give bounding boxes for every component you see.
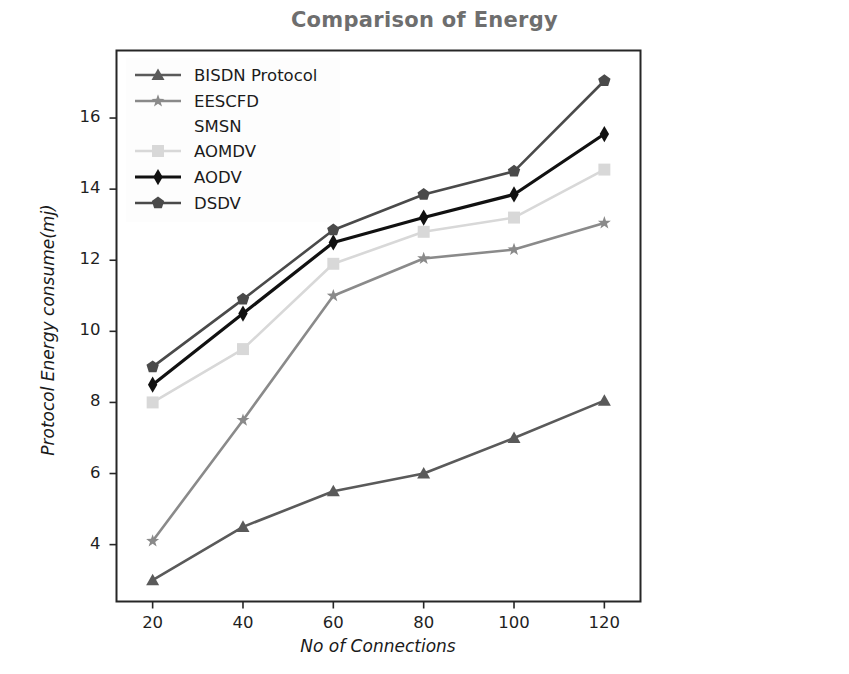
- legend-label: BISDN Protocol: [194, 66, 317, 85]
- legend-marker-icon: [132, 192, 184, 214]
- data-point-marker: [148, 377, 157, 393]
- data-point-marker: [327, 289, 340, 301]
- x-tick-label: 20: [123, 613, 183, 632]
- series-bisdn-protocol: [146, 394, 611, 585]
- data-point-marker: [598, 74, 610, 86]
- data-point-marker: [238, 305, 247, 321]
- x-tick-label: 40: [213, 613, 273, 632]
- series-line: [153, 401, 605, 581]
- y-tick-label: 6: [61, 463, 101, 482]
- data-point-marker: [146, 574, 159, 586]
- series-line: [153, 223, 605, 541]
- data-point-marker: [417, 188, 429, 200]
- x-tick-label: 100: [484, 613, 544, 632]
- data-point-marker: [237, 343, 249, 355]
- data-point-marker: [419, 209, 428, 225]
- legend-item-aodv[interactable]: AODV: [126, 164, 340, 190]
- y-axis-title-wrap: Protocol Energy consume(mj): [38, 70, 58, 590]
- data-point-marker: [417, 252, 430, 264]
- x-tick-label: 80: [394, 613, 454, 632]
- data-point-marker: [598, 164, 610, 176]
- y-tick-label: 10: [61, 320, 101, 339]
- data-point-marker: [598, 216, 611, 228]
- legend-marker-icon: [132, 64, 184, 86]
- legend-sublabel: SMSN: [194, 117, 242, 136]
- data-point-marker: [147, 396, 159, 408]
- legend-item-aomdv[interactable]: AOMDV: [126, 138, 340, 164]
- legend-marker-icon: [132, 166, 184, 188]
- data-point-marker: [327, 258, 339, 270]
- legend-item-eescfd[interactable]: EESCFD: [126, 88, 340, 114]
- y-tick-label: 8: [61, 391, 101, 410]
- legend-label: AODV: [194, 168, 242, 187]
- data-point-marker: [418, 226, 430, 238]
- y-tick-label: 14: [61, 178, 101, 197]
- legend-marker-icon: [132, 90, 184, 112]
- series-eescfd-smsn: [146, 216, 611, 547]
- legend-item-sublabel-row: SMSN: [126, 114, 340, 138]
- legend-label: DSDV: [194, 194, 241, 213]
- y-tick-label: 12: [61, 249, 101, 268]
- data-point-marker: [329, 234, 338, 250]
- data-point-marker: [598, 394, 611, 406]
- legend-item-dsdv[interactable]: DSDV: [126, 190, 340, 216]
- data-point-marker: [600, 126, 609, 142]
- x-tick-label: 120: [574, 613, 634, 632]
- x-tick-label: 60: [303, 613, 363, 632]
- legend-label: AOMDV: [194, 142, 256, 161]
- chart-legend: BISDN ProtocolEESCFDSMSNAOMDVAODVDSDV: [126, 58, 340, 222]
- data-point-marker: [508, 243, 521, 255]
- y-tick-label: 4: [61, 534, 101, 553]
- data-point-marker: [509, 186, 518, 202]
- legend-item-bisdn-protocol[interactable]: BISDN Protocol: [126, 62, 340, 88]
- data-point-marker: [327, 224, 339, 236]
- chart-figure: Comparison of Energy 46810121416 2040608…: [0, 0, 849, 674]
- legend-marker-icon: [132, 140, 184, 162]
- data-point-marker: [508, 212, 520, 224]
- y-axis-title: Protocol Energy consume(mj): [38, 204, 58, 456]
- legend-label: EESCFD: [194, 92, 259, 111]
- x-axis-title: No of Connections: [116, 636, 640, 656]
- y-tick-label: 16: [61, 107, 101, 126]
